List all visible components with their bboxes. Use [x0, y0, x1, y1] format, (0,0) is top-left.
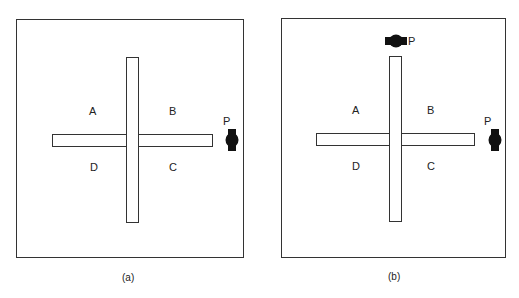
cross-center	[127, 135, 138, 146]
camera-label-p-top: P	[408, 36, 415, 47]
region-label-b: B	[427, 105, 434, 116]
region-label-a: A	[352, 105, 359, 116]
caption-a: (a)	[122, 273, 134, 283]
region-label-d: D	[352, 161, 360, 172]
camera-label-p-right: P	[484, 116, 491, 127]
caption-b: (b)	[388, 272, 400, 282]
camera-icon-top	[385, 34, 407, 48]
region-label-d: D	[90, 162, 98, 173]
cross-center	[390, 134, 401, 145]
region-label-c: C	[427, 161, 435, 172]
camera-icon-right	[488, 129, 502, 151]
region-label-c: C	[169, 162, 177, 173]
camera-label-p: P	[223, 116, 230, 127]
camera-icon	[225, 129, 239, 151]
region-label-b: B	[169, 106, 176, 117]
region-label-a: A	[89, 106, 96, 117]
